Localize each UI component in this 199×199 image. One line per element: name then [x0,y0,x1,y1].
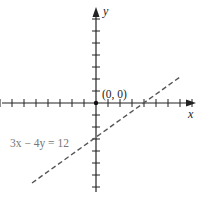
y-axis [92,7,100,192]
origin-label: (0, 0) [102,88,127,101]
x-axis-label: x [187,107,194,121]
equation-label: 3x − 4y = 12 [10,137,69,150]
y-axis-arrow-icon [93,7,100,17]
origin-point [94,101,98,105]
coordinate-graph: y x (0, 0) 3x − 4y = 12 [0,0,199,199]
y-axis-label: y [102,4,109,18]
x-axis-arrow-icon [186,100,196,107]
